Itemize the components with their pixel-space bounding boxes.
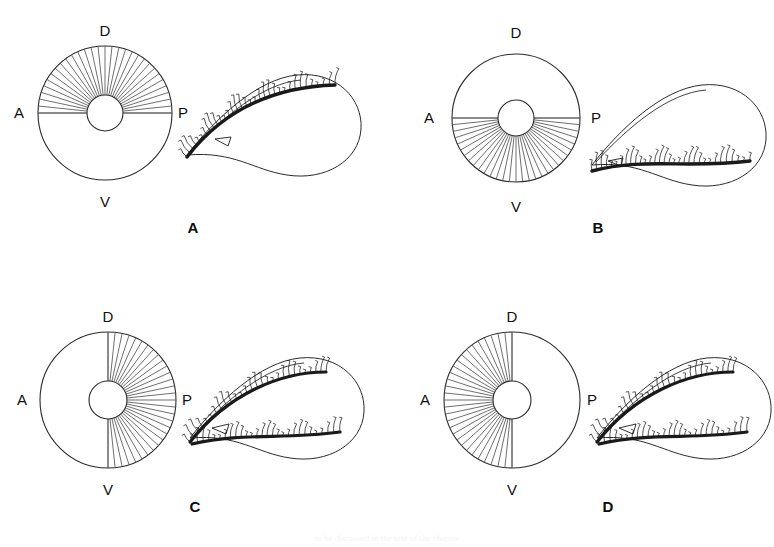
radial-spoke bbox=[118, 68, 154, 101]
bristle bbox=[694, 148, 699, 164]
bristle bbox=[626, 149, 629, 165]
bristle-hook bbox=[632, 392, 635, 393]
radial-spoke bbox=[110, 332, 115, 381]
bristle bbox=[241, 426, 244, 437]
axis-label-anterior: A bbox=[14, 104, 24, 121]
bristle-hook bbox=[333, 417, 336, 418]
bristle bbox=[591, 434, 597, 442]
bristle-hook bbox=[712, 421, 715, 422]
bristle bbox=[306, 74, 308, 87]
bristle-hook bbox=[309, 367, 312, 368]
bristle-hook bbox=[602, 418, 605, 419]
ciliated-band-dorsal bbox=[597, 372, 733, 442]
bristle bbox=[659, 146, 664, 164]
bristle-hook bbox=[688, 432, 691, 433]
organism-drawing bbox=[589, 85, 766, 186]
axis-label-anterior: A bbox=[424, 109, 434, 126]
bristle bbox=[701, 424, 704, 436]
radial-spoke bbox=[112, 333, 122, 381]
bristle bbox=[262, 424, 265, 437]
radial-spoke bbox=[98, 46, 103, 95]
ciliated-band-dorsal bbox=[190, 372, 326, 442]
radial-spoke bbox=[509, 136, 514, 182]
radial-spoke bbox=[505, 332, 510, 381]
radial-spoke bbox=[529, 130, 563, 161]
bristle bbox=[747, 418, 749, 432]
bristle bbox=[631, 147, 635, 165]
bristle-hook bbox=[615, 414, 618, 415]
bristle bbox=[181, 140, 190, 153]
radial-spoke bbox=[445, 404, 493, 414]
bristle-hook bbox=[694, 429, 697, 430]
bristle-hook bbox=[610, 418, 613, 419]
radial-spoke bbox=[122, 413, 158, 446]
radial-spoke bbox=[478, 341, 503, 383]
bristle bbox=[684, 152, 688, 164]
axis-label-ventral: V bbox=[507, 481, 517, 498]
bristle-hook bbox=[339, 417, 342, 418]
radial-spoke bbox=[534, 122, 579, 132]
bristle-hook bbox=[684, 429, 687, 430]
bristle bbox=[668, 373, 670, 386]
bristle bbox=[664, 149, 668, 164]
radial-spoke bbox=[467, 349, 500, 385]
bristle bbox=[712, 422, 715, 435]
radial-spoke bbox=[118, 341, 143, 383]
radial-spoke bbox=[127, 404, 175, 414]
bristle-hook bbox=[736, 155, 739, 156]
bristle-hook bbox=[636, 150, 639, 151]
bristle-hook bbox=[305, 421, 308, 422]
radial-spoke bbox=[478, 416, 503, 458]
bristle-hook bbox=[214, 397, 217, 398]
bristle-hook bbox=[245, 431, 248, 432]
panel-d: DVAPD bbox=[420, 308, 771, 515]
bristle-hook bbox=[640, 394, 643, 395]
bristle-hook bbox=[710, 369, 713, 370]
bristle-hook bbox=[685, 151, 688, 152]
bristle-hook bbox=[199, 135, 202, 136]
body-outline bbox=[592, 85, 766, 186]
bristle-hook bbox=[211, 406, 214, 407]
bristle-hook bbox=[746, 417, 749, 418]
bristle-hook bbox=[600, 151, 603, 152]
bristle-hook bbox=[691, 146, 694, 147]
bristle bbox=[685, 373, 686, 379]
bristle bbox=[329, 73, 332, 86]
bristle bbox=[679, 424, 682, 436]
axis-label-dorsal: D bbox=[103, 308, 114, 325]
radial-spoke bbox=[60, 63, 93, 99]
radial-spoke bbox=[503, 136, 513, 181]
bristle-hook bbox=[217, 115, 220, 116]
axis-label-posterior: P bbox=[178, 104, 188, 121]
bristle-hook bbox=[300, 71, 303, 72]
bristle-hook bbox=[294, 74, 297, 75]
bristle-hook bbox=[652, 431, 655, 432]
bristle-hook bbox=[734, 357, 737, 358]
bristle-hook bbox=[218, 434, 221, 435]
panel-letter-a: A bbox=[188, 219, 199, 236]
panel-letter-b: B bbox=[593, 219, 604, 236]
radial-spoke bbox=[520, 136, 530, 181]
bristle-hook bbox=[225, 110, 228, 111]
bristle bbox=[674, 421, 678, 436]
radial-spoke bbox=[453, 410, 495, 435]
figure-canvas: DVAPADVAPBDVAPCDVAPD bbox=[0, 0, 774, 547]
bristle bbox=[689, 147, 694, 164]
bristle-hook bbox=[595, 152, 598, 153]
panel-a: DVAPA bbox=[14, 22, 361, 236]
radial-spoke bbox=[127, 386, 175, 396]
bristle-hook bbox=[648, 425, 651, 426]
axis-label-anterior: A bbox=[17, 391, 27, 408]
bristle-hook bbox=[662, 145, 665, 146]
bristle-hook bbox=[705, 366, 708, 367]
bristle bbox=[250, 100, 251, 104]
bristle-hook bbox=[715, 153, 718, 154]
hub-circle bbox=[493, 381, 531, 419]
bristle bbox=[340, 418, 342, 432]
bristle-hook bbox=[670, 423, 673, 424]
inner-margin-outline bbox=[596, 90, 706, 162]
bristle-hook bbox=[722, 146, 725, 147]
radial-spoke bbox=[453, 366, 495, 391]
bristle-hook bbox=[631, 429, 634, 430]
bristle-hook bbox=[183, 425, 186, 426]
